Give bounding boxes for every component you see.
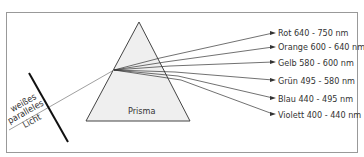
prism-dispersion-diagram: Rot 640 - 750 nm Orange 600 - 640 nm Gel…	[0, 0, 364, 157]
spectrum-label-orange: Orange 600 - 640 nm	[278, 42, 364, 52]
spectrum-label-blau: Blau 440 - 495 nm	[278, 94, 353, 104]
spectrum-label-rot: Rot 640 - 750 nm	[278, 28, 349, 38]
spectrum-label-gruen: Grün 495 - 580 nm	[278, 76, 355, 86]
prism-label: Prisma	[128, 106, 155, 116]
spectrum-label-gelb: Gelb 580 - 600 nm	[278, 58, 354, 68]
spectrum-label-violett: Violett 400 - 440 nm	[278, 110, 361, 120]
